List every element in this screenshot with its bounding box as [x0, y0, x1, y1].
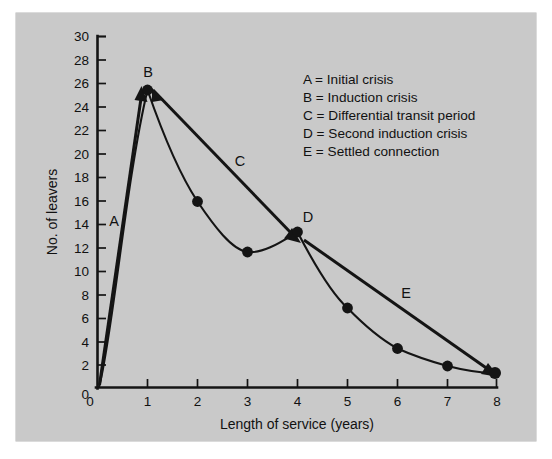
y-tick-label-14: 14: [74, 217, 90, 232]
x-tick-label-4: 4: [294, 394, 302, 409]
data-point-x2: [192, 196, 203, 207]
y-tick-label-24: 24: [74, 100, 90, 115]
figure-container: 30 28 26 24 22 20 18 16 14 12 10 8 6 4 2…: [0, 0, 552, 459]
legend-entry-d: D = Second induction crisis: [303, 126, 468, 141]
x-tick-labels: 0 1 2 3 4 5 6 7 8: [86, 394, 501, 409]
line-chart: 30 28 26 24 22 20 18 16 14 12 10 8 6 4 2…: [0, 0, 552, 459]
data-point-b: [142, 85, 153, 96]
phase-arrow-b-head: [152, 88, 164, 102]
y-tick-label-18: 18: [74, 170, 89, 185]
y-tick-label-12: 12: [74, 241, 89, 256]
x-tick-label-8: 8: [493, 394, 501, 409]
y-tick-label-30: 30: [74, 29, 89, 44]
y-tick-label-28: 28: [74, 53, 89, 68]
phase-arrow-c: [153, 90, 294, 236]
x-tick-label-2: 2: [194, 394, 202, 409]
annotation-b: B: [143, 64, 153, 80]
annotation-c: C: [235, 153, 245, 169]
y-tick-labels: 30 28 26 24 22 20 18 16 14 12 10 8 6 4 2…: [74, 29, 90, 402]
y-tick-label-8: 8: [81, 288, 89, 303]
x-tick-label-6: 6: [394, 394, 402, 409]
legend-entry-b: B = Induction crisis: [303, 90, 418, 105]
x-tick-label-0: 0: [86, 394, 94, 409]
y-tick-label-22: 22: [74, 123, 89, 138]
data-point-d: [292, 227, 303, 238]
annotation-e: E: [401, 285, 411, 301]
y-tick-label-2: 2: [81, 358, 89, 373]
data-point-x8: [489, 367, 501, 379]
y-tick-label-6: 6: [81, 311, 89, 326]
x-tick-label-7: 7: [444, 394, 452, 409]
data-point-x6: [392, 343, 403, 354]
annotation-a: A: [109, 213, 119, 229]
y-axis-title: No. of leavers: [44, 169, 60, 255]
y-tick-label-4: 4: [81, 335, 89, 350]
legend-entry-e: E = Settled connection: [303, 144, 439, 159]
y-tick-label-10: 10: [74, 264, 89, 279]
y-tick-label-26: 26: [74, 76, 89, 91]
legend-entry-c: C = Differential transit period: [303, 108, 475, 123]
legend-entry-a: A = Initial crisis: [303, 72, 393, 87]
data-point-x7: [442, 361, 453, 372]
phase-arrow-a: [100, 95, 142, 385]
axes: [96, 36, 497, 389]
data-point-x5: [342, 303, 353, 314]
y-tick-label-20: 20: [74, 147, 89, 162]
annotation-d: D: [303, 209, 313, 225]
y-tick-label-16: 16: [74, 194, 89, 209]
x-tick-label-3: 3: [244, 394, 252, 409]
x-axis-title: Length of service (years): [220, 416, 374, 432]
x-tick-label-1: 1: [144, 394, 152, 409]
data-point-x3: [242, 247, 253, 258]
legend: A = Initial crisis B = Induction crisis …: [303, 72, 475, 159]
x-tick-label-5: 5: [344, 394, 352, 409]
